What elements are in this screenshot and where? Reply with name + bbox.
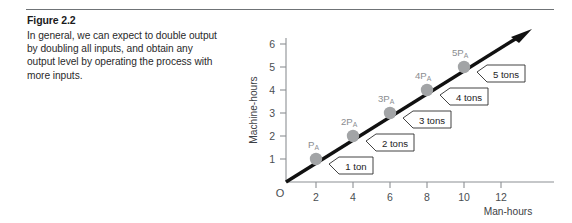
data-point-5[interactable] [458, 61, 470, 73]
x-tick-label-4: 4 [350, 191, 356, 203]
callout-label-1: 1 ton [345, 161, 366, 172]
callout-4-tons: 4 tons [440, 88, 488, 105]
x-tick-label-8: 8 [424, 191, 430, 203]
callout-label-2: 2 tons [382, 138, 408, 149]
callout-label-3: 3 tons [419, 115, 445, 126]
figure-caption-block: Figure 2.2 In general, we can expect to … [27, 14, 223, 82]
production-process-chart: 1 2 3 4 5 6 2 4 6 8 10 [236, 10, 566, 220]
data-point-3[interactable] [384, 107, 396, 119]
figure-container: Figure 2.2 In general, we can expect to … [0, 0, 572, 223]
y-tick-label-5: 5 [269, 61, 275, 73]
callout-label-5: 5 tons [493, 69, 519, 80]
y-tick-label-6: 6 [269, 38, 275, 50]
data-point-label-1: PA [308, 139, 319, 151]
x-axis-tick-labels: 2 4 6 8 10 12 [313, 191, 507, 203]
x-tick-label-10: 10 [458, 191, 470, 203]
origin-label: O [276, 187, 285, 199]
callout-1-ton: 1 ton [329, 157, 373, 174]
data-point-label-5: 5PA [452, 47, 469, 59]
x-axis-title: Man-hours [484, 206, 533, 217]
x-tick-label-6: 6 [387, 191, 393, 203]
callout-3-tons: 3 tons [403, 111, 451, 128]
y-axis-tick-labels: 1 2 3 4 5 6 [269, 38, 275, 165]
data-point-2[interactable] [347, 130, 359, 142]
data-point-label-2: 2PA [341, 116, 358, 128]
callout-2-tons: 2 tons [366, 134, 414, 151]
x-tick-label-2: 2 [313, 191, 319, 203]
chart-svg: 1 2 3 4 5 6 2 4 6 8 10 [236, 10, 566, 220]
y-axis-title: Machine-hours [248, 76, 259, 143]
callout-label-4: 4 tons [456, 92, 482, 103]
callout-5-tons: 5 tons [477, 65, 525, 82]
figure-title: Figure 2.2 [27, 14, 223, 27]
y-tick-label-4: 4 [269, 84, 275, 96]
data-point-4[interactable] [421, 84, 433, 96]
y-tick-label-1: 1 [269, 153, 275, 165]
figure-caption-text: In general, we can expect to double outp… [27, 29, 223, 82]
y-tick-label-2: 2 [269, 130, 275, 142]
y-axis-ticks [280, 44, 286, 159]
x-tick-label-12: 12 [495, 191, 507, 203]
data-point-label-4: 4PA [415, 70, 432, 82]
y-tick-label-3: 3 [269, 107, 275, 119]
data-point-label-3: 3PA [378, 93, 395, 105]
x-axis-ticks [316, 182, 501, 188]
data-point-1[interactable] [310, 153, 322, 165]
